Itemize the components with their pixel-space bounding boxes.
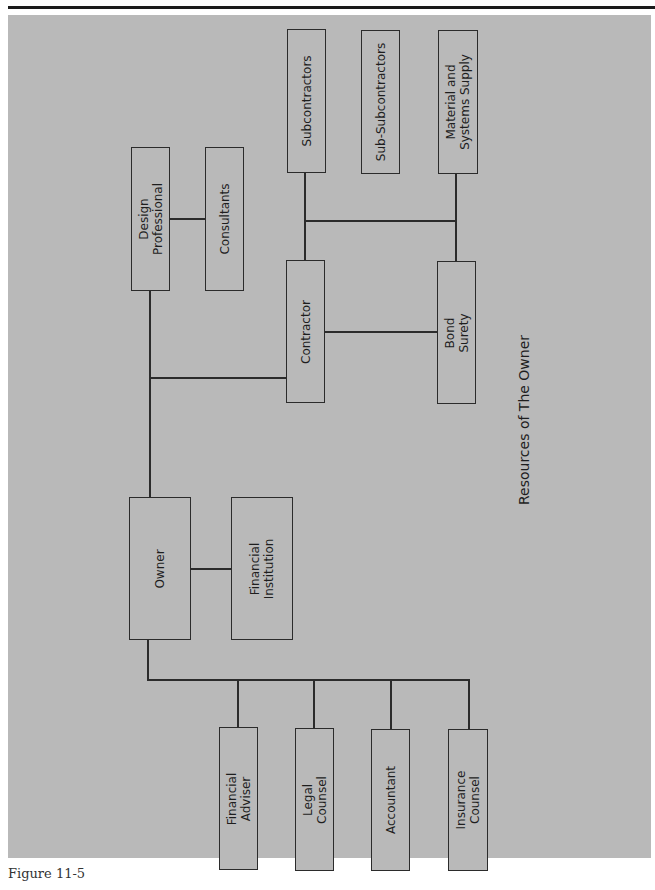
line-to-financial-adviser <box>237 679 239 727</box>
node-label: Owner <box>153 549 167 588</box>
line-subcontractors-contractor <box>304 172 306 260</box>
node-legal-counsel: Legal Counsel <box>295 728 334 871</box>
node-material-supply: Material and Systems Supply <box>438 30 478 174</box>
node-insurance-counsel: Insurance Counsel <box>448 729 488 871</box>
node-owner: Owner <box>129 497 191 640</box>
node-label: Sub-Subcontractors <box>374 43 388 161</box>
line-sub-material <box>304 220 456 222</box>
node-sub-subcontractors: Sub-Subcontractors <box>361 30 400 174</box>
node-label: Financial Institution <box>248 538 276 599</box>
node-contractor: Contractor <box>286 260 325 403</box>
node-accountant: Accountant <box>371 729 410 871</box>
node-label: Consultants <box>218 183 232 254</box>
node-financial-institution: Financial Institution <box>231 497 293 640</box>
line-design-consultants <box>169 218 205 220</box>
line-to-legal-counsel <box>313 679 315 728</box>
diagram-title: Resources of The Owner <box>516 335 532 505</box>
line-material-bond <box>455 173 457 261</box>
node-consultants: Consultants <box>205 147 244 291</box>
node-bond-surety: Bond Surety <box>437 261 476 404</box>
top-rule <box>8 6 655 9</box>
figure-caption: Figure 11-5 <box>8 866 85 881</box>
node-label: Accountant <box>384 766 398 834</box>
line-owner-contractor <box>149 377 286 379</box>
line-to-accountant <box>390 680 392 729</box>
line-design-owner <box>149 290 151 497</box>
line-owner-advisors-trunk <box>147 639 149 680</box>
node-design-professional: Design Professional <box>131 147 170 291</box>
node-financial-adviser: Financial Adviser <box>219 727 258 870</box>
node-label: Bond Surety <box>443 313 471 352</box>
line-contractor-bond <box>324 331 437 333</box>
line-owner-financial-institution <box>190 568 231 570</box>
node-label: Financial Adviser <box>225 772 253 825</box>
node-label: Legal Counsel <box>301 776 329 824</box>
line-advisors-bus <box>147 679 470 681</box>
node-label: Insurance Counsel <box>454 771 482 830</box>
line-to-insurance-counsel <box>468 680 470 729</box>
node-label: Subcontractors <box>300 55 314 146</box>
node-subcontractors: Subcontractors <box>287 29 326 173</box>
node-label: Design Professional <box>137 183 165 255</box>
node-label: Material and Systems Supply <box>444 54 472 150</box>
node-label: Contractor <box>299 300 313 364</box>
